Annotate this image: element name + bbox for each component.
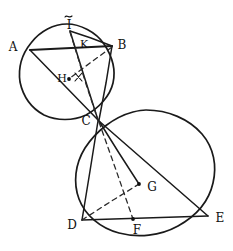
point-marker-F — [131, 217, 135, 221]
label-I: I — [67, 18, 72, 32]
label-A: A — [8, 40, 18, 54]
geometry-canvas: A B I K H C D E F G — [0, 0, 233, 251]
label-C: C — [81, 114, 90, 128]
point-marker-G — [137, 182, 141, 186]
label-F: F — [133, 223, 141, 237]
label-G: G — [147, 180, 157, 194]
geometry-diagram: A B I K H C D E F G — [0, 0, 233, 251]
label-E: E — [216, 211, 225, 225]
label-K: K — [80, 38, 89, 51]
label-D: D — [67, 218, 77, 232]
label-B: B — [118, 38, 127, 52]
point-marker-H — [67, 77, 71, 81]
label-H: H — [57, 72, 67, 85]
